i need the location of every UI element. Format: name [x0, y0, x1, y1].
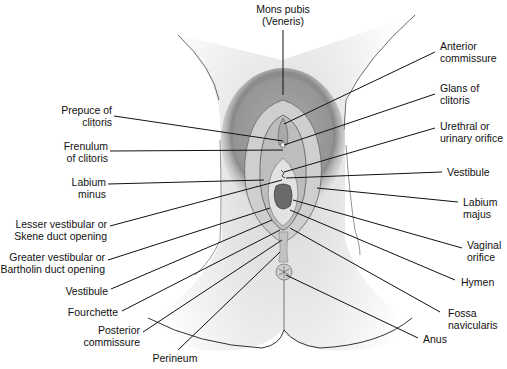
vaginal-orifice-shape: [274, 184, 292, 209]
label-hymen: Hymen: [461, 276, 505, 288]
label-anus: Anus: [423, 333, 463, 345]
label-vestibule-right: Vestibule: [447, 166, 507, 178]
label-perineum: Perineum: [145, 352, 205, 364]
label-fourchette: Fourchette: [30, 306, 118, 318]
label-fossa-navicularis: Fossa navicularis: [448, 307, 507, 331]
label-anterior-commissure: Anterior commissure: [440, 40, 507, 64]
label-labium-minus: Labium minus: [30, 176, 106, 200]
perineum-shape: [279, 232, 288, 262]
label-glans-of-clitoris: Glans of clitoris: [440, 82, 507, 106]
label-frenulum-of-clitoris: Frenulum of clitoris: [30, 140, 108, 164]
label-urethral-orifice: Urethral or urinary orifice: [440, 120, 507, 144]
label-prepuce-of-clitoris: Prepuce of clitoris: [30, 104, 112, 128]
label-greater-vestibular: Greater vestibular or Bartholin duct ope…: [0, 251, 105, 275]
label-vaginal-orifice: Vaginal orifice: [467, 239, 507, 263]
label-mons-pubis: Mons pubis (Veneris): [250, 3, 316, 27]
label-vestibule-left: Vestibule: [30, 285, 108, 297]
label-labium-majus: Labium majus: [463, 196, 507, 220]
label-posterior-commissure: Posterior commissure: [60, 324, 140, 348]
label-lesser-vestibular: Lesser vestibular or Skene duct opening: [0, 218, 107, 242]
anatomy-diagram: Mons pubis (Veneris) Anterior commissure…: [0, 0, 507, 369]
anus-shape: [276, 264, 292, 280]
